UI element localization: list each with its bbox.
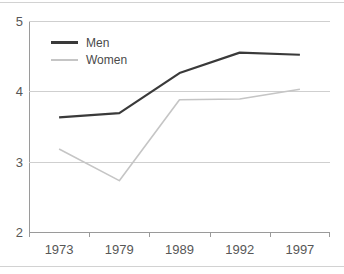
x-tick-label-1997: 1997 (285, 243, 314, 256)
legend-swatch-men-icon (51, 41, 78, 44)
y-tick-label-4: 4 (16, 85, 23, 98)
legend-item-men: Men (51, 34, 171, 51)
y-tick-label-2: 2 (16, 226, 23, 239)
legend-label-women: Women (86, 54, 127, 66)
x-tick-2 (149, 232, 150, 237)
bottom-divider (0, 266, 344, 267)
chart-legend: Men Women (51, 34, 171, 68)
legend-item-women: Women (51, 51, 171, 68)
series-line-women (59, 89, 300, 180)
legend-swatch-women-icon (51, 59, 78, 61)
legend-label-men: Men (86, 37, 109, 49)
x-tick-5 (329, 232, 330, 237)
y-tick-label-5: 5 (16, 15, 23, 28)
x-tick-4 (270, 232, 271, 237)
y-tick-label-3: 3 (16, 155, 23, 168)
x-tick-label-1992: 1992 (225, 243, 254, 256)
top-divider (0, 2, 344, 3)
x-tick-3 (210, 232, 211, 237)
gridline-2 (29, 232, 330, 233)
x-tick-label-1989: 1989 (165, 243, 194, 256)
line-chart-figure: 2345 19731979198919921997 Men Women (0, 0, 344, 274)
x-tick-label-1973: 1973 (45, 243, 74, 256)
x-tick-label-1979: 1979 (105, 243, 134, 256)
x-tick-1 (89, 232, 90, 237)
x-tick-0 (29, 232, 30, 237)
